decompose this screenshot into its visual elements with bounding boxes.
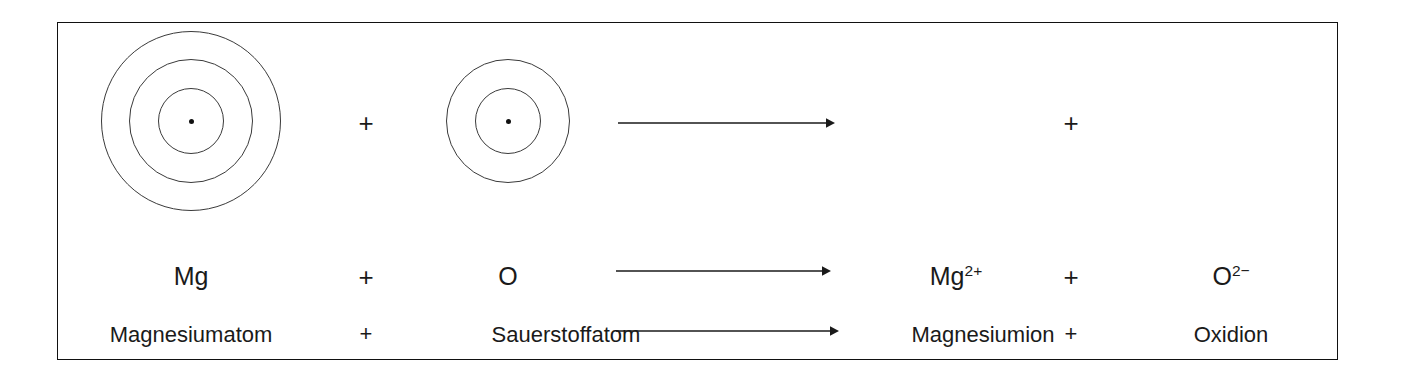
magnesium-ion-symbol: Mg [930,262,965,290]
name-product-magnesium-ion: Magnesiumion [911,324,1054,346]
oxygen-nucleus-dot-icon [506,119,511,124]
reaction-diagram: + + Mg + O Mg2 [0,0,1401,371]
oxide-ion-charge: 2− [1232,262,1250,279]
formula-reactant-oxygen: O [498,264,517,289]
formula-row-plus-1: + [351,264,381,290]
oxide-ion-symbol: O [1212,262,1231,290]
shell-row-plus-2: + [1056,110,1086,136]
shell-row-reaction-arrow-icon [618,116,836,130]
name-row-reaction-arrow-icon [616,324,840,338]
formula-product-oxide-ion: O2− [1212,264,1249,289]
name-row-plus-1: + [351,323,381,345]
magnesium-nucleus-dot-icon [189,119,194,124]
name-row-plus-2: + [1056,323,1086,345]
name-product-oxide-ion: Oxidion [1194,324,1269,346]
diagram-frame: + + Mg + O Mg2 [57,22,1338,360]
formula-reactant-magnesium: Mg [174,264,209,289]
magnesium-ion-charge: 2+ [965,262,983,279]
formula-row-plus-2: + [1056,264,1086,290]
shell-row-plus-1: + [351,110,381,136]
name-reactant-magnesium-atom: Magnesiumatom [110,324,273,346]
formula-row-reaction-arrow-icon [616,264,832,278]
formula-product-magnesium-ion: Mg2+ [930,264,982,289]
